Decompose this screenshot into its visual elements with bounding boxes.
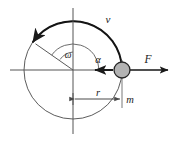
velocity-label: v — [106, 13, 111, 25]
mass-particle-dot — [114, 62, 130, 78]
force-label: F — [143, 53, 152, 65]
circular-motion-diagram: v ω α F r m — [0, 0, 176, 145]
physics-diagram-figure: v ω α F r m — [0, 0, 176, 145]
mass-label: m — [126, 94, 134, 105]
angle-label: α — [95, 54, 101, 65]
velocity-arc — [33, 21, 122, 70]
radius-label: r — [96, 87, 101, 98]
angle-arc-outer — [52, 44, 99, 70]
angular-velocity-label: ω — [65, 50, 72, 60]
